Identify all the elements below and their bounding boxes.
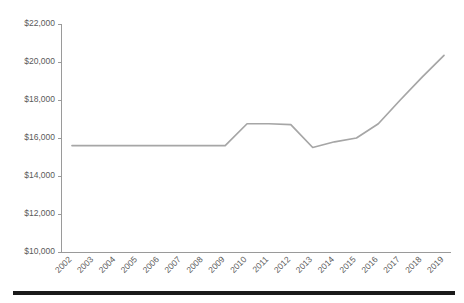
- y-axis-tick-label: $16,000: [24, 132, 55, 142]
- y-axis-tick-label: $12,000: [24, 208, 55, 218]
- x-axis-tick-label: 2012: [272, 254, 293, 275]
- x-axis-tick-label: 2005: [119, 254, 140, 275]
- x-axis-tick-label: 2006: [140, 254, 161, 275]
- x-axis-tick-label: 2015: [337, 254, 358, 275]
- x-axis-tick-label: 2004: [97, 254, 118, 275]
- x-axis-tick-labels: 2002200320042005200620072008200920102011…: [53, 254, 446, 275]
- x-axis-tick-label: 2016: [359, 254, 380, 275]
- y-axis-tick-label: $14,000: [24, 170, 55, 180]
- x-axis-tick-label: 2014: [316, 254, 337, 275]
- y-axis-tick-label: $22,000: [24, 18, 55, 28]
- y-axis-tick-marks: [58, 25, 62, 253]
- x-axis-tick-label: 2007: [162, 254, 183, 275]
- footer-rule: [13, 291, 455, 295]
- y-axis-tick-label: $10,000: [24, 246, 55, 256]
- x-axis-tick-label: 2013: [294, 254, 315, 275]
- chart-screenshot: $10,000$12,000$14,000$16,000$18,000$20,0…: [0, 0, 464, 303]
- plot-area-background: [61, 24, 451, 252]
- x-axis-tick-label: 2010: [228, 254, 249, 275]
- y-axis-tick-label: $20,000: [24, 56, 55, 66]
- x-axis-tick-label: 2017: [381, 254, 402, 275]
- y-axis-tick-labels: $10,000$12,000$14,000$16,000$18,000$20,0…: [24, 18, 55, 256]
- x-axis-tick-label: 2008: [184, 254, 205, 275]
- line-chart: $10,000$12,000$14,000$16,000$18,000$20,0…: [0, 0, 464, 285]
- x-axis-tick-label: 2018: [403, 254, 424, 275]
- x-axis-tick-label: 2009: [206, 254, 227, 275]
- x-axis-tick-label: 2019: [425, 254, 446, 275]
- x-axis-tick-label: 2003: [75, 254, 96, 275]
- y-axis-tick-label: $18,000: [24, 94, 55, 104]
- x-axis-tick-label: 2002: [53, 254, 74, 275]
- x-axis-tick-label: 2011: [250, 254, 270, 274]
- chart-canvas: $10,000$12,000$14,000$16,000$18,000$20,0…: [0, 0, 464, 285]
